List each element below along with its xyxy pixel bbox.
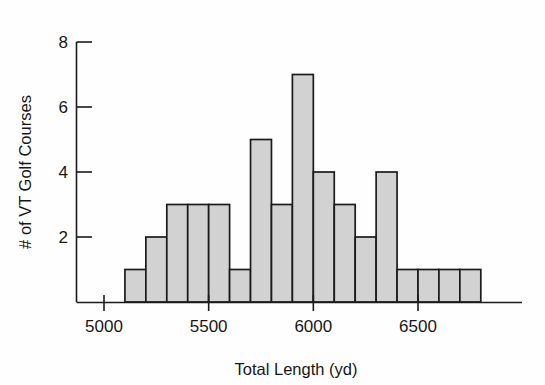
x-axis-title: Total Length (yd)	[235, 360, 358, 378]
histogram-bar	[125, 270, 146, 303]
x-tick-label: 6500	[399, 317, 437, 336]
y-tick-label: 6	[59, 98, 68, 117]
histogram-bar	[397, 270, 418, 303]
histogram-figure: 2468 5000550060006500 Total Length (yd) …	[0, 0, 545, 385]
bars-group	[125, 75, 481, 303]
chart-canvas: 2468 5000550060006500 Total Length (yd) …	[0, 0, 545, 385]
histogram-bar	[271, 205, 292, 303]
histogram-bar	[146, 237, 167, 302]
histogram-bar	[167, 205, 188, 303]
histogram-bar	[334, 205, 355, 303]
histogram-bar	[209, 205, 230, 303]
histogram-bar	[460, 270, 481, 303]
x-tick-label: 5000	[85, 317, 123, 336]
x-tick-label: 5500	[190, 317, 228, 336]
y-tick-label: 8	[59, 33, 68, 52]
histogram-bar	[376, 172, 397, 302]
histogram-bar	[292, 75, 313, 303]
histogram-bar	[188, 205, 209, 303]
histogram-bar	[251, 140, 272, 303]
y-tick-label: 2	[59, 228, 68, 247]
histogram-bar	[230, 270, 251, 303]
histogram-bar	[313, 172, 334, 302]
y-ticks-group: 2468	[59, 33, 92, 247]
histogram-bar	[418, 270, 439, 303]
histogram-bar	[439, 270, 460, 303]
y-axis-title: # of VT Golf Courses	[16, 95, 34, 249]
x-tick-label: 6000	[294, 317, 332, 336]
y-tick-label: 4	[59, 163, 68, 182]
histogram-bar	[355, 237, 376, 302]
